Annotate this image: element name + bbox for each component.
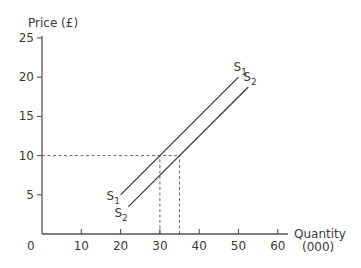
x-axis-label: Quantity bbox=[294, 227, 346, 241]
x-tick-label: 60 bbox=[270, 239, 285, 253]
x-tick-label: 50 bbox=[231, 239, 246, 253]
y-tick-label: 10 bbox=[19, 149, 34, 163]
curve-label-end-s2: S2 bbox=[243, 70, 256, 87]
x-tick-label: 30 bbox=[152, 239, 167, 253]
supply-curves: S1S1S2S2 bbox=[107, 60, 257, 222]
x-axis-unit: (000) bbox=[302, 240, 334, 254]
y-ticks: 510152025 bbox=[19, 31, 42, 202]
y-tick-label: 20 bbox=[19, 70, 34, 84]
y-tick-label: 15 bbox=[19, 109, 34, 123]
y-tick-label: 5 bbox=[26, 188, 34, 202]
y-tick-label: 25 bbox=[19, 31, 34, 45]
x-tick-label: 40 bbox=[192, 239, 207, 253]
y-axis-label: Price (£) bbox=[28, 16, 78, 30]
origin-label: 0 bbox=[27, 239, 35, 253]
x-tick-label: 10 bbox=[74, 239, 89, 253]
supply-shift-chart: 102030405060 510152025 S1S1S2S2 Price (£… bbox=[0, 0, 361, 268]
curve-label-start-s1: S1 bbox=[107, 189, 120, 206]
curve-label-start-s2: S2 bbox=[114, 206, 127, 223]
x-tick-label: 20 bbox=[113, 239, 128, 253]
supply-curve-s2 bbox=[128, 87, 248, 207]
axes bbox=[42, 36, 288, 234]
